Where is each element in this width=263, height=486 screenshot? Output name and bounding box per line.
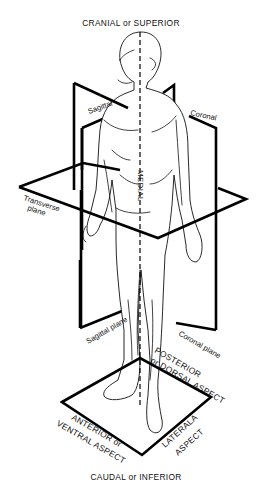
- anatomical-planes-diagram: CRANIAL or SUPERIOR CAUDAL or INFERIOR S…: [0, 0, 263, 486]
- cranial-superior-label: CRANIAL or SUPERIOR: [82, 18, 180, 28]
- sagittal-plane-label: Sagittal plane: [85, 315, 129, 346]
- coronal-plane-label: Coronal plane: [177, 329, 222, 360]
- coronal-label: Coronal: [190, 108, 218, 122]
- medial-label: MEDIAL: [136, 170, 145, 202]
- caudal-inferior-label: CAUDAL or INFERIOR: [90, 472, 181, 482]
